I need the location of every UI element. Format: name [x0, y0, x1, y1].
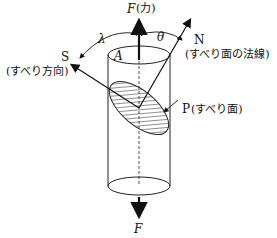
force-bottom-symbol: F: [134, 223, 142, 235]
slip-plane-symbol: P: [182, 103, 190, 115]
area-label: A: [114, 50, 123, 62]
lambda-label: λ: [98, 33, 106, 45]
slip-direction-symbol: S: [61, 51, 69, 63]
slip-direction-note: (すべり方向): [6, 66, 69, 77]
slip-normal-symbol: N: [194, 34, 205, 46]
slip-plane-note: (すべり面): [191, 104, 243, 115]
force-top-note: (力): [136, 3, 156, 14]
theta-label: θ: [157, 31, 164, 43]
slip-plane-pointer: [164, 100, 178, 112]
slip-normal-note: (すべり面の法線): [185, 49, 270, 60]
lambda-arc: [80, 33, 133, 58]
schmid-law-diagram: [0, 0, 277, 238]
force-top-symbol: F: [127, 3, 135, 15]
